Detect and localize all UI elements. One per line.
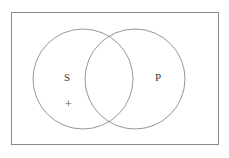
venn-diagram-canvas <box>0 0 229 158</box>
circle-label-p: P <box>155 72 161 83</box>
circle-subject-s <box>33 29 133 129</box>
existential-mark-plus: + <box>65 98 72 110</box>
venn-diagram-figure: S P + <box>0 0 229 158</box>
circle-predicate-p <box>85 29 185 129</box>
circle-label-s: S <box>64 72 70 83</box>
